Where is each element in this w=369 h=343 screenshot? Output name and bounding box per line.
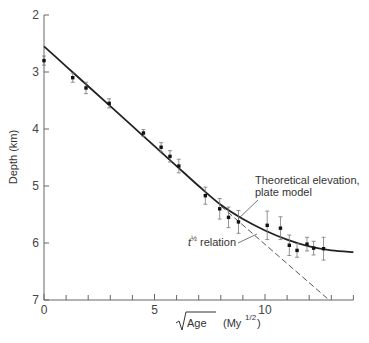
- data-point: [42, 56, 46, 65]
- data-point: [236, 211, 240, 234]
- data-point: [295, 244, 299, 258]
- plate-model-curve: [44, 46, 353, 252]
- t-half-relation-label: t½ relation: [188, 235, 236, 248]
- y-tick-label: 7: [32, 293, 39, 307]
- data-point: [218, 199, 222, 220]
- data-point: [305, 237, 309, 251]
- data-point: [177, 159, 181, 173]
- depth-vs-age-chart: 234567 0510 Depth (km) Age (My 1/2 ) The…: [0, 0, 369, 343]
- t-half-relation-leader: [238, 234, 257, 243]
- y-axis-title: Depth (km): [7, 130, 19, 184]
- y-tick-label: 3: [32, 65, 39, 79]
- x-axis-title-unit: (My: [223, 317, 242, 329]
- t-half-relation-line: [221, 206, 329, 300]
- y-tick-label: 2: [32, 8, 39, 22]
- x-axis-title: Age (My 1/2 ): [176, 312, 261, 330]
- x-axis-title-close: ): [257, 317, 261, 329]
- y-tick-label: 6: [32, 236, 39, 250]
- x-axis-title-root: Age: [187, 317, 207, 329]
- x-tick-label: 10: [258, 303, 272, 317]
- annotations: Theoretical elevation, plate model t½ re…: [188, 174, 360, 248]
- x-axis: 0510: [41, 294, 354, 317]
- x-tick-label: 5: [151, 303, 158, 317]
- plate-model-label: Theoretical elevation,: [255, 174, 360, 186]
- x-tick-label: 0: [41, 303, 48, 317]
- y-tick-label: 4: [32, 122, 39, 136]
- plate-model-leader: [238, 200, 258, 219]
- y-tick-label: 5: [32, 179, 39, 193]
- data-points: [42, 56, 326, 260]
- data-point: [312, 241, 316, 255]
- plate-model-label-line2: plate model: [255, 186, 312, 198]
- data-point: [265, 211, 269, 240]
- x-axis-title-exp: 1/2: [245, 313, 257, 322]
- data-point: [322, 237, 326, 260]
- data-point: [287, 235, 291, 256]
- y-axis: 234567: [32, 8, 49, 307]
